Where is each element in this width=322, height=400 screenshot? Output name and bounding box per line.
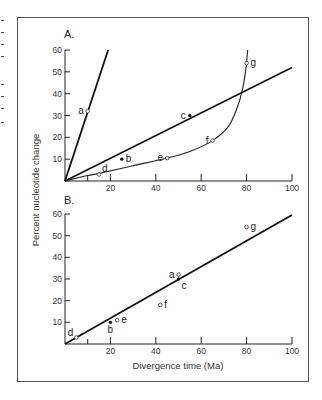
y-tick-label: 30 bbox=[53, 111, 63, 121]
point-label: g bbox=[251, 221, 257, 232]
data-point-f bbox=[211, 139, 215, 143]
y-tick-label: 40 bbox=[53, 252, 63, 262]
x-tick-label: 20 bbox=[106, 346, 116, 356]
data-point-g bbox=[245, 225, 249, 229]
data-point-a bbox=[86, 109, 90, 113]
y-axis-title: Percent nucleotide change bbox=[30, 134, 41, 247]
y-tick-label: 40 bbox=[53, 89, 63, 99]
point-label: c bbox=[182, 280, 187, 291]
point-label: f bbox=[164, 299, 167, 310]
data-point-e bbox=[115, 318, 119, 322]
y-tick-label: 20 bbox=[53, 296, 63, 306]
accelerating-curve bbox=[65, 50, 248, 181]
x-tick-label: 20 bbox=[106, 183, 116, 193]
x-tick-label: 60 bbox=[196, 183, 206, 193]
data-point-f bbox=[159, 303, 163, 307]
x-tick-label: 40 bbox=[151, 346, 161, 356]
steep-rate-line bbox=[65, 50, 108, 181]
data-point-a bbox=[177, 273, 181, 277]
y-tick-label: 10 bbox=[53, 154, 63, 164]
point-label: b bbox=[108, 324, 114, 335]
point-label: f bbox=[206, 135, 209, 146]
y-tick-label: 60 bbox=[53, 45, 63, 55]
data-point-c bbox=[188, 114, 191, 117]
x-axis-title: Divergence time (Ma) bbox=[133, 360, 224, 371]
x-tick-label: 60 bbox=[196, 346, 206, 356]
x-tick-label: 100 bbox=[285, 183, 299, 193]
panel-a: A.10203040506020406080100abcdefg bbox=[53, 28, 300, 193]
point-label: a bbox=[169, 269, 175, 280]
x-tick-label: 80 bbox=[242, 346, 252, 356]
y-tick-label: 30 bbox=[53, 274, 63, 284]
data-point-e bbox=[165, 156, 169, 160]
data-point-g bbox=[245, 61, 249, 65]
point-label: g bbox=[251, 57, 257, 68]
y-tick-label: 20 bbox=[53, 132, 63, 142]
figure: A.10203040506020406080100abcdefg B.10203… bbox=[0, 0, 322, 400]
point-label: d bbox=[102, 163, 108, 174]
moderate-rate-line bbox=[65, 67, 292, 181]
x-tick-label: 80 bbox=[242, 183, 252, 193]
y-tick-label: 50 bbox=[53, 231, 63, 241]
y-tick-label: 10 bbox=[53, 317, 63, 327]
point-label: c bbox=[181, 110, 186, 121]
point-label: d bbox=[68, 327, 74, 338]
x-tick-label: 100 bbox=[285, 346, 299, 356]
data-point-b bbox=[120, 157, 123, 160]
data-point-d bbox=[97, 173, 101, 177]
y-tick-label: 50 bbox=[53, 67, 63, 77]
panel-b: B.10203040506020406080100abcdefg bbox=[53, 194, 300, 356]
point-label: e bbox=[121, 314, 127, 325]
data-point-d bbox=[75, 336, 79, 340]
data-point-c bbox=[177, 277, 180, 280]
point-label: e bbox=[158, 152, 164, 163]
x-tick-label: 40 bbox=[151, 183, 161, 193]
panel-label: B. bbox=[64, 194, 74, 206]
panel-label: A. bbox=[64, 28, 74, 40]
y-tick-label: 60 bbox=[53, 209, 63, 219]
point-label: b bbox=[126, 153, 132, 164]
point-label: a bbox=[78, 105, 84, 116]
